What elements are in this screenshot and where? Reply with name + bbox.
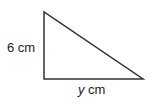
unit-cm: cm xyxy=(85,82,106,97)
vertical-side-label: 6 cm xyxy=(7,41,35,54)
triangle-outline xyxy=(44,12,143,79)
horizontal-side-label: y cm xyxy=(78,83,105,96)
